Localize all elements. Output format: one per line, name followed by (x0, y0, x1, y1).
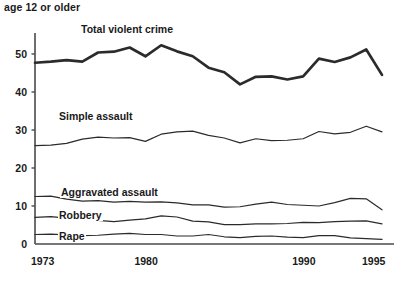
x-axis-tick-1995: 1995 (362, 255, 385, 267)
y-axis-tick-30: 30 (3, 124, 27, 136)
series-label-aggravated: Aggravated assault (60, 186, 159, 198)
series-label-rape: Rape (58, 230, 86, 242)
series-label-simple: Simple assault (58, 110, 134, 122)
plot-area (0, 0, 401, 291)
violent-crime-line-chart: age 12 or older 50403020100 197319801990… (0, 0, 401, 291)
y-axis-tick-10: 10 (3, 200, 27, 212)
y-axis-tick-20: 20 (3, 162, 27, 174)
y-axis-tick-50: 50 (3, 48, 27, 60)
y-axis-tick-0: 0 (3, 238, 27, 250)
x-axis-tick-1973: 1973 (31, 255, 54, 267)
x-axis-tick-1990: 1990 (292, 255, 315, 267)
y-axis-tick-40: 40 (3, 86, 27, 98)
x-axis-tick-1980: 1980 (134, 255, 157, 267)
series-label-total: Total violent crime (80, 23, 174, 35)
series-label-robbery: Robbery (58, 209, 103, 221)
